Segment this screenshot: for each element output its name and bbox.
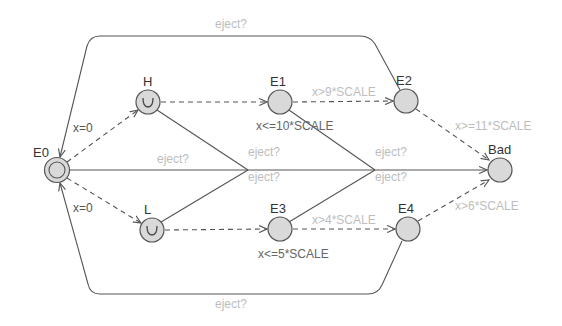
edge-label-l-join1: eject? bbox=[248, 170, 280, 184]
edge-e4-bad: x>6*SCALE bbox=[418, 180, 519, 221]
node-label-e4: E4 bbox=[398, 201, 414, 216]
node-bad[interactable]: Bad bbox=[488, 142, 512, 182]
node-label-e1: E1 bbox=[270, 74, 286, 89]
node-e3[interactable]: E3 x<=5*SCALE bbox=[258, 201, 329, 261]
node-h[interactable]: H bbox=[136, 74, 160, 114]
node-label-bad: Bad bbox=[488, 142, 511, 157]
edge-e0-l: x=0 bbox=[67, 178, 141, 223]
edge-label-e3-e4: x>4*SCALE bbox=[312, 213, 376, 227]
node-label-l: L bbox=[144, 202, 151, 217]
edge-label-e2-bad: x>=11*SCALE bbox=[455, 119, 532, 133]
node-e2[interactable]: E2 bbox=[394, 73, 418, 113]
edge-label-e0-bad: eject? bbox=[157, 152, 189, 166]
invariant-e3: x<=5*SCALE bbox=[258, 247, 329, 261]
edge-e4-e0-bottom: eject? bbox=[60, 183, 402, 311]
edge-label-e4-bad: x>6*SCALE bbox=[455, 199, 519, 213]
node-label-e2: E2 bbox=[396, 73, 412, 88]
edge-l-join1: eject? bbox=[161, 170, 280, 222]
edge-e3-e4: x>4*SCALE bbox=[293, 213, 395, 229]
edge-e0-h: x=0 bbox=[67, 110, 138, 162]
node-label-e3: E3 bbox=[270, 201, 286, 216]
node-label-e0: E0 bbox=[33, 145, 49, 160]
edge-label-e1-join2: eject? bbox=[375, 145, 407, 159]
node-label-h: H bbox=[143, 74, 152, 89]
edge-label-e0-h: x=0 bbox=[73, 121, 93, 135]
edge-label-h-join1: eject? bbox=[248, 145, 280, 159]
edge-e2-bad: x>=11*SCALE bbox=[416, 109, 532, 160]
automaton-diagram: eject? eject? x=0 x=0 eject? eject? ejec… bbox=[0, 0, 562, 326]
edge-l-e3 bbox=[165, 229, 267, 230]
edge-label-e3-join2: eject? bbox=[375, 170, 407, 184]
edge-e1-e2: x>9*SCALE bbox=[293, 85, 393, 102]
edge-label-eject-top: eject? bbox=[215, 17, 247, 31]
node-e4[interactable]: E4 bbox=[396, 201, 420, 241]
node-e1[interactable]: E1 x<=10*SCALE bbox=[256, 74, 333, 133]
edge-label-eject-bottom: eject? bbox=[215, 297, 247, 311]
edge-label-e1-e2: x>9*SCALE bbox=[312, 85, 376, 99]
node-e0[interactable]: E0 bbox=[33, 145, 70, 183]
invariant-e1: x<=10*SCALE bbox=[256, 119, 333, 133]
node-l[interactable]: L bbox=[140, 202, 164, 242]
edge-label-e0-l: x=0 bbox=[73, 201, 93, 215]
